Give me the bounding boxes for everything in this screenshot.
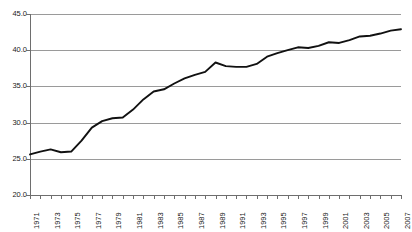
- y-axis-tick-mark: [26, 86, 30, 87]
- y-axis-tick-mark: [26, 159, 30, 160]
- y-axis-tick-mark: [26, 50, 30, 51]
- y-axis-tick-mark: [26, 14, 30, 15]
- y-axis-tick-mark: [26, 195, 30, 196]
- y-axis-tick-mark: [26, 123, 30, 124]
